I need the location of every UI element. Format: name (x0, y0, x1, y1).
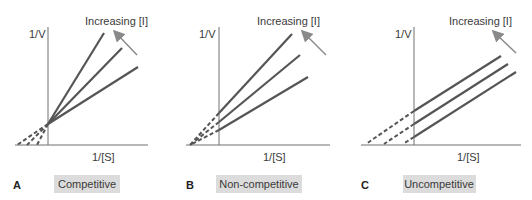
panel-title: Uncompetitive (404, 178, 474, 190)
dashed-extrapolation (190, 130, 219, 145)
dashed-extrapolation (384, 124, 414, 144)
plot-line-mid-inhibitor (414, 64, 508, 124)
panel-letter: B (186, 179, 194, 191)
dashed-extrapolation (17, 124, 48, 145)
panel-letter: A (13, 179, 21, 191)
dashed-extrapolation (27, 124, 48, 145)
panel-title: Non-competitive (219, 178, 298, 190)
y-axis-label: 1/V (395, 28, 412, 40)
arrow-label: Increasing [I] (257, 15, 320, 27)
dashed-extrapolation (190, 122, 219, 145)
panel-b-non-competitive: 1/V 1/[S] Increasing [I] B Non-competiti… (186, 15, 330, 193)
dashed-extrapolation (403, 137, 414, 144)
plot-line-no-inhibitor (414, 72, 516, 137)
plot-line-high-inhibitor (414, 56, 501, 111)
plot-line-no-inhibitor (48, 67, 138, 124)
increasing-inhibitor-arrow (305, 34, 326, 55)
x-axis-label: 1/[S] (457, 151, 480, 163)
dashed-extrapolation (190, 113, 219, 145)
panel-c-uncompetitive: 1/V 1/[S] Increasing [I] C Uncompetitive (361, 15, 521, 193)
arrow-label: Increasing [I] (449, 15, 512, 27)
increasing-inhibitor-arrow (117, 34, 137, 55)
plot-line-mid-inhibitor (48, 48, 122, 124)
panel-letter: C (361, 179, 369, 191)
plot-line-high-inhibitor (219, 34, 292, 113)
x-axis-label: 1/[S] (92, 151, 115, 163)
panel-title: Competitive (58, 178, 116, 190)
panel-a-competitive: 1/V 1/[S] Increasing [I] A Competitive (13, 15, 148, 193)
increasing-inhibitor-arrow (496, 34, 516, 53)
plot-line-high-inhibitor (48, 33, 104, 124)
arrow-label: Increasing [I] (85, 15, 148, 27)
y-axis-label: 1/V (199, 28, 216, 40)
y-axis-label: 1/V (29, 28, 46, 40)
x-axis-label: 1/[S] (263, 151, 286, 163)
